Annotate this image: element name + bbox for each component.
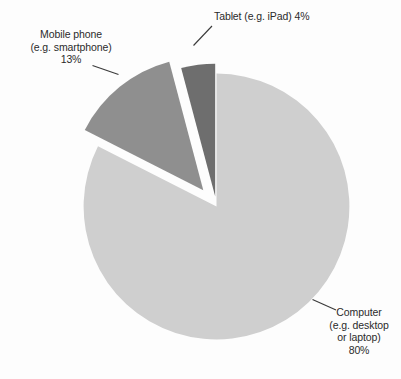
leader-line-mobile (93, 66, 119, 75)
slice-label-tablet: Tablet (e.g. iPad) 4% (214, 10, 309, 23)
slice-label-computer: Computer (e.g. desktop or laptop) 80% (318, 306, 400, 356)
slice-label-computer-line2: (e.g. desktop (318, 319, 400, 332)
slice-label-computer-line1: Computer (318, 306, 400, 319)
pie-chart: Tablet (e.g. iPad) 4% Mobile phone (e.g.… (0, 0, 401, 379)
slice-label-mobile-line2: (e.g. smartphone) (8, 41, 134, 54)
slice-label-mobile: Mobile phone (e.g. smartphone) 13% (8, 28, 134, 66)
slice-label-computer-line3: or laptop) (318, 331, 400, 344)
slice-label-mobile-value: 13% (8, 53, 134, 66)
slice-label-tablet-line1: Tablet (e.g. iPad) 4% (214, 10, 309, 23)
leader-line-tablet (194, 26, 213, 46)
slice-label-mobile-line1: Mobile phone (8, 28, 134, 41)
slice-label-computer-value: 80% (318, 344, 400, 357)
